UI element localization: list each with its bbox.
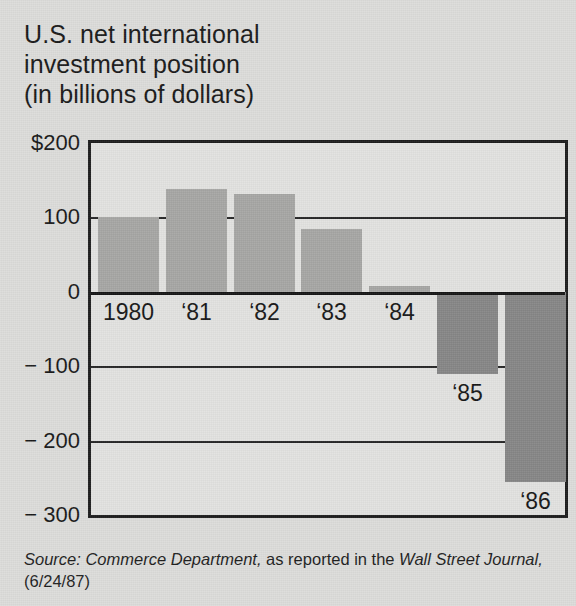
source-date: (6/24/87)	[24, 572, 90, 590]
bar-‘85	[437, 292, 498, 374]
y-tick-label--200: − 200	[2, 430, 80, 452]
x-label-85: ‘85	[423, 382, 513, 405]
source-publication: Wall Street Journal,	[399, 550, 543, 568]
y-tick-label-0: 0	[2, 281, 80, 303]
bar-‘81	[166, 189, 227, 292]
gridline--200	[91, 441, 565, 443]
y-tick-label--100: − 100	[2, 355, 80, 377]
bar-‘83	[301, 229, 362, 292]
bar-1980	[98, 217, 159, 291]
plot-area	[88, 140, 568, 518]
gridline-100	[91, 217, 565, 219]
source-middle: as reported in the	[262, 550, 400, 568]
y-tick-label-100: 100	[2, 206, 80, 228]
x-label-84: ‘84	[355, 301, 445, 324]
bar-‘82	[234, 194, 295, 292]
source-note: Source: Commerce Department, as reported…	[24, 548, 554, 592]
source-label: Source: Commerce Department,	[24, 550, 262, 568]
y-tick-label-200: $200	[2, 132, 80, 154]
plot-inner	[91, 143, 565, 515]
zero-axis-line	[91, 292, 565, 295]
x-label-86: ‘86	[491, 490, 576, 513]
y-tick-label--300: − 300	[2, 504, 80, 526]
chart-figure: U.S. net international investment positi…	[0, 0, 576, 606]
bar-‘86	[505, 292, 566, 482]
